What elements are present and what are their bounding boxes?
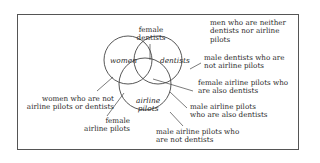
set-label-airline-pilots: airline pilots: [136, 97, 160, 113]
annotation-line: airline pilots: [70, 125, 130, 133]
set-label-dentists: dentists: [160, 57, 190, 65]
annotation-female-pilots: female airline pilots: [70, 117, 130, 134]
annotation-male-pilots-dentists: male airline pilots who are also dentist…: [190, 103, 267, 120]
annotation-line: are also dentists: [198, 87, 288, 95]
annotation-male-pilots-not-dentists: male airline pilots who are not dentists: [156, 128, 239, 145]
annotation-line: dentists: [134, 34, 168, 42]
annotation-line: not airline pilots: [204, 62, 285, 70]
annotation-female-dentists: female dentists: [134, 26, 168, 43]
annotation-line: who are also dentists: [190, 111, 267, 119]
annotation-line: pilots: [210, 36, 286, 44]
annotation-male-dentists-not-pilots: male dentists who are not airline pilots: [204, 54, 285, 71]
annotation-men-neither: men who are neither dentists nor airline…: [210, 19, 286, 44]
set-label-women: women: [110, 57, 137, 65]
set-label-airline-line2: pilots: [136, 105, 160, 113]
annotation-line: airline pilots or dentists: [20, 103, 114, 111]
annotation-female-pilots-dentists: female airline pilots who are also denti…: [198, 79, 288, 96]
annotation-line: are not dentists: [156, 136, 239, 144]
annotation-women-only: women who are not airline pilots or dent…: [20, 95, 114, 112]
